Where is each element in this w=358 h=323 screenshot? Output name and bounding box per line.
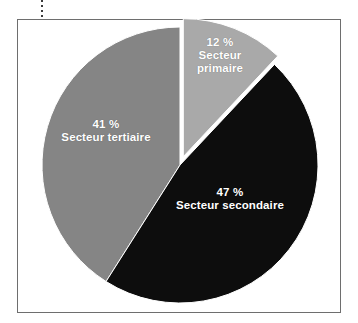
pie-label-secondary-name: Secteur secondaire [153,199,307,212]
chart-page: 12 % Secteur primaire 41 % Secteur terti… [0,0,358,323]
pie-label-primary-percent: 12 % [189,36,251,49]
pie-label-primary-name-line1: Secteur [189,49,251,62]
pie-label-secteur-primaire: 12 % Secteur primaire [189,36,251,75]
pie-label-tertiary-name: Secteur tertiaire [50,131,162,144]
pie-label-secteur-tertiaire: 41 % Secteur tertiaire [50,118,162,144]
dotted-leader-line [41,0,43,20]
pie-label-secteur-secondaire: 47 % Secteur secondaire [153,186,307,212]
cropped-title-fragment [0,0,358,4]
pie-label-secondary-percent: 47 % [153,186,307,199]
chart-frame [17,19,341,313]
pie-label-primary-name-line2: primaire [189,62,251,75]
pie-label-tertiary-percent: 41 % [50,118,162,131]
